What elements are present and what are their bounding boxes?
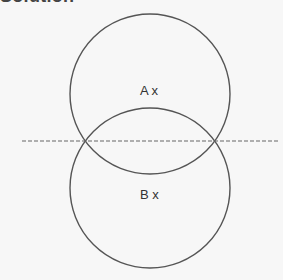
circles-diagram	[0, 0, 283, 280]
label-a: A x	[140, 83, 158, 98]
label-b: B x	[140, 187, 159, 202]
